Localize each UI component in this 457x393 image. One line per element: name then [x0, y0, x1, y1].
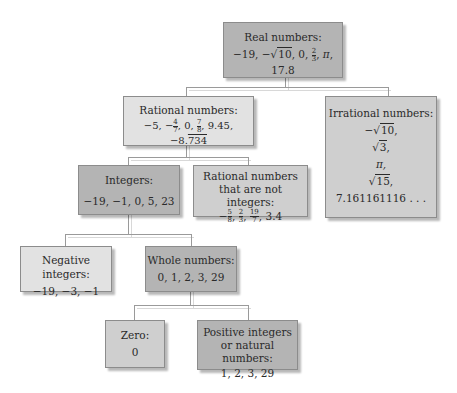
node-rational-non-integers: Rational numbers that are not integers: …	[193, 165, 308, 217]
connector	[128, 157, 248, 158]
node-values: −19, −√10, 0, 23, π, 17.8	[224, 47, 342, 77]
connector	[134, 305, 135, 320]
connector	[186, 87, 388, 88]
node-positive-integers: Positive integers or natural numbers: 1,…	[197, 320, 298, 370]
connector	[248, 157, 249, 165]
connector	[68, 237, 194, 238]
connector	[134, 305, 248, 306]
node-zero: Zero: 0	[105, 320, 165, 368]
node-integers: Integers: −19, −1, 0, 5, 23	[78, 165, 180, 215]
node-value: √15,	[326, 173, 436, 190]
node-title: Rational numbers:	[124, 103, 253, 117]
node-title: Whole numbers:	[146, 253, 236, 267]
connector	[128, 215, 129, 235]
node-title-line1: Positive integers	[198, 326, 297, 339]
node-irrational-numbers: Irrational numbers: −√10, √3, π, √15, 7.…	[325, 96, 437, 218]
connector	[186, 87, 187, 96]
connector	[388, 87, 389, 96]
node-value: 7.161161116 . . .	[326, 190, 436, 207]
connector	[131, 160, 251, 161]
connector	[137, 308, 251, 309]
connector	[190, 292, 191, 306]
connector	[65, 234, 66, 246]
node-title: Real numbers:	[224, 30, 342, 44]
node-title-line2: that are not integers:	[194, 183, 307, 209]
node-values: 1, 2, 3, 29	[198, 367, 297, 380]
node-negative-integers: Negative integers: −19, −3, −1	[20, 246, 112, 292]
node-whole-numbers: Whole numbers: 0, 1, 2, 3, 29	[145, 246, 237, 292]
node-values: −19, −3, −1	[21, 284, 111, 298]
node-value: π,	[326, 156, 436, 173]
node-rational-numbers: Rational numbers: −5, −47, 0, 78, 9.45, …	[123, 96, 254, 146]
node-values: −58, 23, 197, 3.4	[194, 209, 307, 224]
node-values: 0, 1, 2, 3, 29	[146, 270, 236, 284]
node-values: −5, −47, 0, 78, 9.45, −8.734	[124, 119, 253, 148]
node-value: −√10,	[326, 122, 436, 139]
node-title-line2: or natural numbers:	[198, 339, 297, 365]
node-value: √3,	[326, 139, 436, 156]
node-title-line1: Rational numbers	[194, 170, 307, 183]
node-title: Zero:	[106, 328, 164, 342]
node-values: 0	[106, 345, 164, 359]
connector	[191, 234, 192, 246]
connector	[128, 157, 129, 165]
node-values: −19, −1, 0, 5, 23	[79, 194, 179, 208]
node-title: Irrational numbers:	[326, 105, 436, 122]
node-title: Integers:	[79, 173, 179, 187]
connector	[248, 305, 249, 320]
node-real-numbers: Real numbers: −19, −√10, 0, 23, π, 17.8	[223, 22, 343, 78]
connector	[288, 78, 289, 90]
connector	[189, 90, 391, 91]
connector	[65, 234, 191, 235]
node-title: Negative integers:	[21, 253, 111, 281]
